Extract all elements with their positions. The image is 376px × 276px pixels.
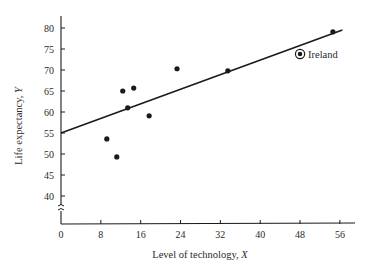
- axis-break-icon: [58, 205, 64, 211]
- y-tick-label: 75: [44, 44, 54, 55]
- data-point: [125, 105, 130, 110]
- x-tick-label: 0: [59, 229, 64, 240]
- x-tick-label: 40: [255, 229, 265, 240]
- data-points: [104, 29, 335, 159]
- ireland-point: [295, 49, 304, 58]
- x-axis-title: Level of technology, X: [152, 249, 248, 260]
- x-tick-label: 24: [176, 229, 186, 240]
- x-tick-label: 8: [98, 229, 103, 240]
- ireland-dot: [298, 52, 303, 57]
- ireland-annotation: Ireland: [308, 49, 338, 60]
- data-point: [120, 88, 125, 93]
- y-tick-label: 40: [44, 191, 54, 202]
- x-tick-label: 16: [136, 229, 146, 240]
- y-axis-title: Life expectancy, Y: [13, 86, 24, 165]
- data-point: [104, 136, 109, 141]
- x-tick-label: 32: [215, 229, 225, 240]
- fitted-line: [61, 30, 342, 133]
- data-point: [131, 85, 136, 90]
- plot-area: 404550556065707580 08162432404856 Level …: [0, 0, 376, 276]
- y-tick-label: 65: [44, 86, 54, 97]
- scatter-chart: 404550556065707580 08162432404856 Level …: [0, 0, 376, 276]
- x-axis-line: [61, 223, 355, 224]
- y-tick-label: 45: [44, 170, 54, 181]
- data-point: [330, 29, 335, 34]
- y-tick-label: 55: [44, 128, 54, 139]
- y-tick-label: 60: [44, 107, 54, 118]
- x-tick-label: 56: [335, 229, 345, 240]
- data-point: [225, 68, 230, 73]
- y-tick-label: 50: [44, 149, 54, 160]
- y-axis-ticks: 404550556065707580: [44, 23, 65, 202]
- regression-line: [61, 30, 342, 133]
- x-tick-label: 48: [295, 229, 305, 240]
- data-point: [147, 113, 152, 118]
- data-point: [114, 154, 119, 159]
- axes: [58, 16, 355, 224]
- data-point: [174, 66, 179, 71]
- y-tick-label: 80: [44, 23, 54, 34]
- y-tick-label: 70: [44, 65, 54, 76]
